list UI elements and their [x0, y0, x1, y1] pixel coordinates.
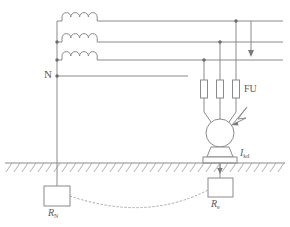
fuse-label: FU	[244, 84, 257, 94]
winding-phase-3	[57, 52, 117, 60]
winding-phase-2	[57, 34, 117, 42]
figure-canvas: N FU Ikd RN Re	[0, 0, 290, 227]
motor-pedestal	[207, 147, 233, 157]
neutral-resistor-label: RN	[48, 208, 58, 219]
neutral-resistor-box	[44, 186, 70, 206]
equipment-resistor-label: Re	[211, 199, 220, 210]
equipment-resistor-box	[208, 178, 233, 197]
fault-current-label: Ikd	[240, 148, 249, 159]
winding-phase-1	[57, 13, 117, 21]
motor	[203, 119, 237, 163]
phase-conductors	[57, 21, 283, 76]
equipment-earthing-resistor	[208, 163, 233, 197]
fault-current-subscript: kd	[243, 153, 249, 159]
tap-dot-3	[234, 19, 237, 22]
neutral-resistor-subscript: N	[54, 213, 58, 219]
tap-dot-2	[218, 40, 221, 43]
fault-current-arrowhead	[217, 168, 223, 174]
motor-body	[206, 119, 234, 147]
earth-return-path	[70, 190, 208, 208]
transformer-windings	[57, 13, 117, 60]
equipment-resistor-subscript: e	[217, 204, 220, 210]
earth-ground	[5, 163, 285, 172]
fuse-1	[201, 80, 208, 98]
fault-arrow-icon	[232, 107, 247, 126]
schematic-drawing	[0, 0, 290, 227]
tap-dot-1	[202, 58, 205, 61]
motor-foot	[203, 157, 237, 163]
current-arrow	[248, 21, 254, 57]
phase-taps-to-fuses	[202, 19, 237, 80]
fuse-3	[233, 80, 240, 98]
neutral-label: N	[44, 69, 52, 80]
fuse-bank	[201, 80, 240, 98]
fuse-2	[217, 80, 224, 98]
ground-hatching	[6, 163, 284, 172]
